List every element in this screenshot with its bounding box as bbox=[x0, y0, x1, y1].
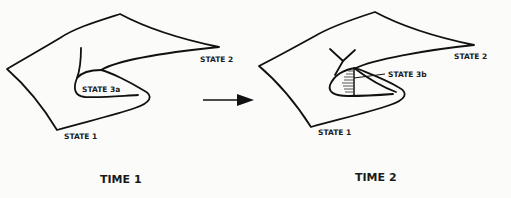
time2-surface-outline bbox=[259, 12, 474, 127]
time1-state1-label: STATE 1 bbox=[64, 132, 97, 141]
time1-surface-outline bbox=[7, 14, 219, 130]
time1-fold-edge bbox=[77, 70, 101, 78]
time2-state2-label: STATE 2 bbox=[454, 52, 487, 61]
time2-caption: TIME 2 bbox=[355, 171, 397, 184]
right-arrow-icon bbox=[203, 94, 254, 106]
catastrophe-fold-diagram: STATE 3a STATE 2 STATE 1 TIME 1 bbox=[0, 0, 511, 198]
time2-state3b-label: STATE 3b bbox=[388, 70, 427, 79]
time1-state2-label: STATE 2 bbox=[200, 55, 233, 64]
time2-state1-label: STATE 1 bbox=[318, 128, 351, 137]
time2-hatched-region bbox=[342, 71, 354, 92]
time2-panel: STATE 3b STATE 2 STATE 1 TIME 2 bbox=[259, 12, 487, 184]
time1-state3a-label: STATE 3a bbox=[82, 85, 120, 94]
time1-panel: STATE 3a STATE 2 STATE 1 TIME 1 bbox=[7, 14, 233, 186]
time1-caption: TIME 1 bbox=[100, 173, 142, 186]
time2-cusp-left bbox=[330, 49, 343, 61]
